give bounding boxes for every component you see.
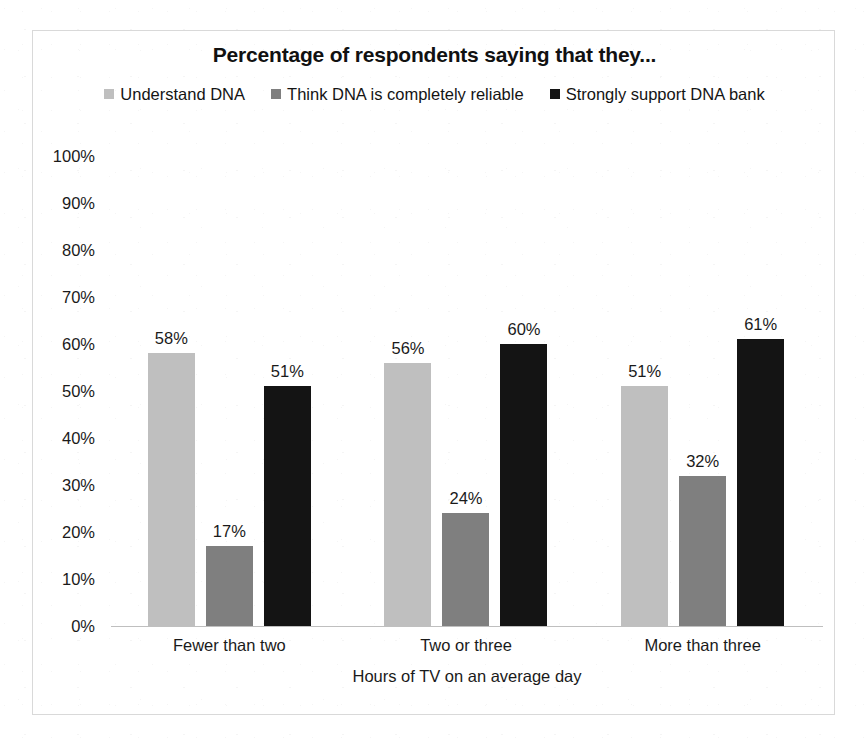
square-swatch-icon (104, 89, 114, 99)
y-axis-tick-label: 70% (62, 288, 95, 307)
y-axis-tick-label: 10% (62, 570, 95, 589)
bar-group: 58%17%51% (111, 156, 348, 626)
bar-value-label: 60% (507, 320, 540, 339)
legend-label: Strongly support DNA bank (566, 85, 765, 104)
plot-area: 58%17%51%56%24%60%51%32%61% (111, 156, 821, 626)
y-axis-tick-label: 40% (62, 429, 95, 448)
y-axis-tick-label: 50% (62, 382, 95, 401)
y-axis-tick-label: 60% (62, 335, 95, 354)
bar-value-label: 61% (744, 315, 777, 334)
x-axis-category-label: Fewer than two (173, 636, 286, 655)
chart-title: Percentage of respondents saying that th… (33, 43, 836, 67)
bar[interactable]: 17% (206, 546, 253, 626)
bar[interactable]: 56% (384, 363, 431, 626)
x-axis-category-labels: Fewer than twoTwo or threeMore than thre… (111, 636, 823, 666)
x-axis-category-label: More than three (644, 636, 760, 655)
bar-value-label: 51% (628, 362, 661, 381)
y-axis-tick-label: 30% (62, 476, 95, 495)
bar-value-label: 56% (391, 339, 424, 358)
bar-value-label: 17% (213, 522, 246, 541)
x-axis-category-label: Two or three (420, 636, 512, 655)
y-axis-tick-label: 100% (53, 147, 95, 166)
y-axis-tick-label: 80% (62, 241, 95, 260)
y-axis-tick-label: 0% (71, 617, 95, 636)
bar-value-label: 24% (449, 489, 482, 508)
x-axis-title: Hours of TV on an average day (111, 667, 823, 686)
legend-label: Understand DNA (120, 85, 245, 104)
bar[interactable]: 51% (621, 386, 668, 626)
legend-label: Think DNA is completely reliable (287, 85, 524, 104)
chart-container: Percentage of respondents saying that th… (32, 30, 835, 715)
bar[interactable]: 24% (442, 513, 489, 626)
legend-entry-1[interactable]: Think DNA is completely reliable (271, 85, 524, 104)
chart-legend: Understand DNAThink DNA is completely re… (33, 85, 836, 104)
bar-value-label: 32% (686, 452, 719, 471)
square-swatch-icon (550, 89, 560, 99)
bar-group: 51%32%61% (584, 156, 821, 626)
square-swatch-icon (271, 89, 281, 99)
x-axis-line (111, 626, 823, 627)
legend-entry-0[interactable]: Understand DNA (104, 85, 245, 104)
y-axis: 0%10%20%30%40%50%60%70%80%90%100% (33, 156, 103, 626)
y-axis-tick-label: 20% (62, 523, 95, 542)
bar[interactable]: 51% (264, 386, 311, 626)
bar-value-label: 58% (155, 329, 188, 348)
bar[interactable]: 61% (737, 339, 784, 626)
bar[interactable]: 60% (500, 344, 547, 626)
bar[interactable]: 58% (148, 353, 195, 626)
legend-entry-2[interactable]: Strongly support DNA bank (550, 85, 765, 104)
bar-group: 56%24%60% (348, 156, 585, 626)
bar[interactable]: 32% (679, 476, 726, 626)
y-axis-tick-label: 90% (62, 194, 95, 213)
bar-value-label: 51% (271, 362, 304, 381)
